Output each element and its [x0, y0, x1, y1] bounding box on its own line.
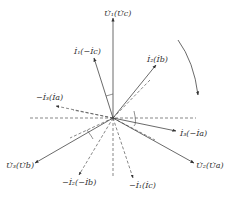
phasor-label-neg-i2: −İ₂(−İb) — [62, 178, 96, 187]
phasor-diagram: U̇₁(U̇c)İ₁(−İc)İ₂(İb)İ₃(−İa)U̇₂(U̇a)U̇₃(… — [0, 0, 226, 204]
phasor-label-u3: U̇₃(U̇b) — [6, 161, 34, 170]
dashed-phasors — [56, 106, 133, 178]
phasor-label-i2: İ₂(İb) — [146, 55, 168, 64]
clockwise-rotation-arrow-icon — [178, 40, 198, 95]
reference-line — [113, 80, 150, 118]
phasor-i3 — [113, 118, 176, 131]
angle-arc-i3-u2 — [134, 111, 136, 126]
phasor-labels: U̇₁(U̇c)İ₁(−İc)İ₂(İb)İ₃(−İa)U̇₂(U̇a)U̇₃(… — [6, 9, 224, 190]
phasor-u3 — [35, 118, 113, 163]
rotation-arrow — [178, 40, 198, 95]
phasor-label-i3: İ₃(−İa) — [179, 129, 207, 138]
angle-arcs — [87, 94, 136, 139]
phasor-label-neg-i1: −İ₁(İc) — [129, 181, 156, 190]
phasor-neg-i3 — [56, 106, 113, 118]
phasor-i1 — [94, 58, 113, 118]
angle-arc-u1-i1 — [106, 94, 113, 96]
phasor-u2 — [113, 118, 194, 163]
phasor-label-neg-i3: −İ₃(İa) — [36, 93, 63, 102]
phasor-neg-i2 — [79, 118, 113, 175]
solid-phasors — [35, 18, 194, 163]
phasor-i2 — [113, 65, 156, 118]
phasor-label-u1: U̇₁(U̇c) — [104, 9, 131, 18]
phasor-label-u2: U̇₂(U̇a) — [196, 161, 224, 170]
phasor-label-i1: İ₁(−İc) — [73, 47, 101, 56]
reference-line — [70, 118, 113, 138]
